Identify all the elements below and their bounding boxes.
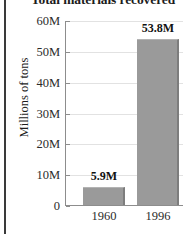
tickmark-60m (66, 21, 70, 22)
y-axis-title: Millions of tons (17, 28, 32, 168)
plot-area: 60M 50M 40M 30M 20M 10M 0 (65, 21, 183, 206)
y-tick-label-50m: 50M (36, 44, 60, 59)
bar-value-label-1960: 5.9M (91, 169, 117, 184)
x-tick-label-1960: 1960 (92, 209, 117, 224)
x-tick-label-1996: 1996 (146, 209, 171, 224)
y-tick-label-20m: 20M (36, 137, 60, 152)
y-tick-label-10m: 10M (36, 168, 60, 183)
chart-title: Total materials recovered (14, 0, 192, 6)
tickmark-40m (66, 83, 70, 84)
bar-value-label-1996: 53.8M (142, 21, 174, 36)
bar-chart-figure: Total materials recovered Millions of to… (0, 0, 195, 234)
tickmark-20m (66, 144, 70, 145)
bar-1996[interactable] (137, 39, 179, 205)
tickmark-0 (66, 206, 70, 207)
x-axis-line (65, 205, 183, 206)
y-tick-label-60m: 60M (36, 14, 60, 29)
y-tick-label-30m: 30M (36, 106, 60, 121)
y-tick-label-40m: 40M (36, 75, 60, 90)
y-tick-label-0: 0 (54, 199, 60, 214)
bar-1960[interactable] (83, 187, 125, 205)
tickmark-30m (66, 114, 70, 115)
tickmark-50m (66, 52, 70, 53)
tickmark-10m (66, 175, 70, 176)
